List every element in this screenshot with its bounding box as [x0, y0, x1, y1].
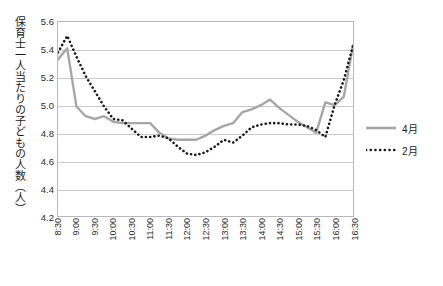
legend-solid-line-icon: [366, 123, 396, 133]
x-axis-tick-label: 16:00: [332, 218, 341, 241]
x-axis-tick-label: 11:00: [146, 218, 155, 240]
x-axis-tick-label: 10:30: [128, 218, 137, 241]
legend-dotted-line-icon: [366, 145, 396, 155]
legend-item: 2月: [366, 139, 438, 161]
x-axis-tick-label: 9:00: [72, 218, 81, 236]
x-axis-tick-label: 12:30: [202, 218, 211, 241]
y-axis-tick-label: 5.0: [28, 100, 54, 111]
y-axis-tick-label: 5.2: [28, 72, 54, 83]
chart-container: 保育士一人当たりの子どもの人数（人） 4.24.44.64.85.05.25.4…: [0, 0, 443, 286]
plot-area: [57, 21, 354, 217]
y-axis-tick-labels: 4.24.44.64.85.05.25.45.6: [26, 0, 54, 286]
x-axis-tick-label: 10:00: [109, 218, 118, 241]
legend-item: 4月: [366, 117, 438, 139]
y-axis-tick-label: 4.6: [28, 156, 54, 167]
legend-label: 2月: [402, 143, 418, 158]
legend-label: 4月: [402, 121, 418, 136]
x-axis-tick-label: 13:00: [221, 218, 230, 241]
x-axis-tick-label: 14:00: [258, 218, 267, 241]
plot-lines: [58, 22, 353, 216]
y-axis-tick-label: 5.6: [28, 16, 54, 27]
chart-legend: 4月2月: [366, 117, 438, 161]
x-axis-tick-label: 13:30: [239, 218, 248, 241]
x-axis-tick-label: 15:30: [313, 218, 322, 241]
x-axis-tick-label: 16:30: [351, 218, 360, 241]
x-axis-tick-label: 8:30: [54, 218, 63, 236]
x-axis-tick-label: 11:30: [165, 218, 174, 240]
x-axis-tick-label: 15:00: [295, 218, 304, 241]
y-axis-tick-label: 4.8: [28, 128, 54, 139]
x-axis-tick-label: 14:30: [276, 218, 285, 241]
x-axis-tick-labels: 8:309:009:3010:0010:3011:0011:3012:0012:…: [57, 218, 354, 278]
y-axis-title: 保育士一人当たりの子どもの人数（人）: [6, 16, 26, 224]
x-axis-tick-label: 9:30: [91, 218, 100, 236]
y-axis-tick-label: 4.2: [28, 212, 54, 223]
x-axis-tick-label: 12:00: [183, 218, 192, 241]
y-axis-tick-label: 4.4: [28, 184, 54, 195]
y-axis-tick-label: 5.4: [28, 44, 54, 55]
data-series-line: [58, 36, 353, 155]
